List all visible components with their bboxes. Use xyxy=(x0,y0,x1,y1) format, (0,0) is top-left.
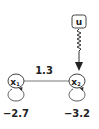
self-loop-x1 xyxy=(8,89,24,101)
wavy-arrow-icon xyxy=(75,29,83,71)
self-loop-weight-x2: −3.2 xyxy=(63,109,91,119)
input-node-u: u xyxy=(72,15,86,28)
node-x1: x1 xyxy=(8,74,24,88)
self-loop-weight-x1: −2.7 xyxy=(2,109,30,119)
self-loop-x2 xyxy=(69,89,85,101)
node-x2: x2 xyxy=(69,74,85,88)
input-node-label: u xyxy=(76,17,82,27)
node-x1-subscript: 1 xyxy=(16,81,20,87)
edge-weight-label: 1.3 xyxy=(32,66,56,76)
node-x2-subscript: 2 xyxy=(77,81,81,87)
